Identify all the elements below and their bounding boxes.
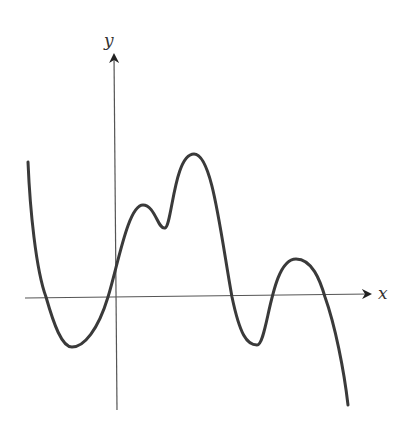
y-axis bbox=[114, 55, 117, 410]
y-axis-label: y bbox=[103, 30, 114, 50]
x-axis-label: x bbox=[378, 283, 388, 303]
x-axis bbox=[25, 294, 370, 298]
function-curve bbox=[28, 154, 348, 405]
chart: x y bbox=[0, 0, 411, 427]
